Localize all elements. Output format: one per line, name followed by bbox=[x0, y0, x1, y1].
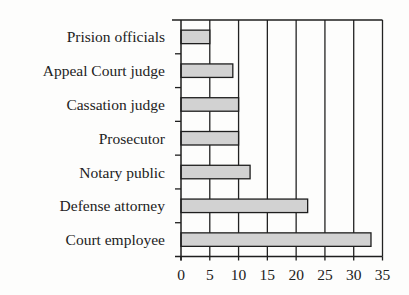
x-tick-label: 25 bbox=[317, 266, 333, 283]
bar-defense-attorney bbox=[181, 199, 308, 213]
x-tick-label: 15 bbox=[260, 266, 276, 283]
bar-court-employee bbox=[181, 233, 371, 247]
category-label: Prosecutor bbox=[99, 130, 166, 147]
horizontal-bar-chart: Prision officialsAppeal Court judgeCassa… bbox=[0, 0, 409, 295]
bar-notary-public bbox=[181, 165, 250, 179]
bar-prosecutor bbox=[181, 132, 239, 146]
category-label: Court employee bbox=[66, 231, 166, 248]
category-label: Prision officials bbox=[67, 28, 165, 45]
category-label: Cassation judge bbox=[66, 96, 165, 113]
bar-prision-officials bbox=[181, 30, 210, 44]
category-label: Notary public bbox=[79, 164, 165, 181]
x-tick-labels: 05101520253035 bbox=[177, 266, 390, 283]
x-tick-label: 5 bbox=[206, 266, 214, 283]
bar-cassation-judge bbox=[181, 98, 239, 112]
x-tick-label: 35 bbox=[375, 266, 391, 283]
category-label: Appeal Court judge bbox=[43, 62, 165, 79]
bar-appeal-court-judge bbox=[181, 64, 233, 78]
category-labels: Prision officialsAppeal Court judgeCassa… bbox=[43, 28, 166, 248]
x-tick-label: 0 bbox=[177, 266, 185, 283]
x-tick-label: 10 bbox=[231, 266, 247, 283]
x-tick-label: 20 bbox=[288, 266, 304, 283]
x-tick-label: 30 bbox=[346, 266, 362, 283]
category-label: Defense attorney bbox=[60, 197, 166, 214]
